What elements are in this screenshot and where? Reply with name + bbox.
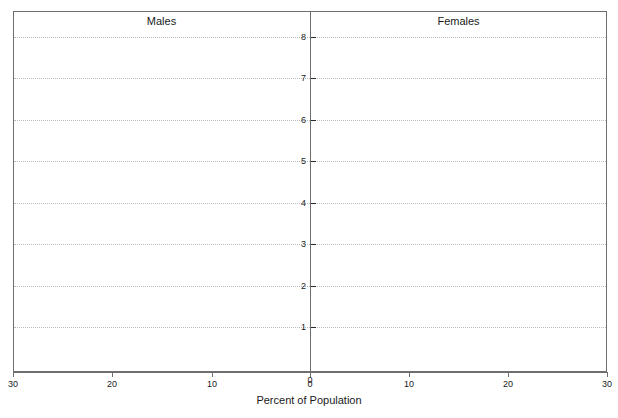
- x-tick-3: [310, 372, 311, 377]
- y-tick-label-6: 6: [286, 116, 306, 125]
- x-axis-title: Percent of Population: [0, 393, 618, 407]
- population-pyramid-chart: Males Females 876543210 3020100102030 Pe…: [0, 0, 618, 418]
- x-tick-1: [112, 372, 113, 377]
- y-tick-label-2: 2: [286, 282, 306, 291]
- x-tick-label-5: 20: [493, 379, 523, 389]
- x-tick-label-3: 0: [295, 379, 325, 389]
- x-tick-label-1: 20: [97, 379, 127, 389]
- x-tick-2: [212, 372, 213, 377]
- panel-title-females: Females: [310, 14, 607, 28]
- x-tick-4: [409, 372, 410, 377]
- y-tick-label-1: 1: [286, 323, 306, 332]
- x-tick-label-4: 10: [394, 379, 424, 389]
- panel-title-males: Males: [13, 14, 310, 28]
- x-tick-6: [607, 372, 608, 377]
- x-tick-label-0: 30: [0, 379, 28, 389]
- x-tick-label-6: 30: [592, 379, 618, 389]
- y-tick-label-3: 3: [286, 240, 306, 249]
- center-axis-line: [310, 11, 311, 372]
- x-tick-5: [508, 372, 509, 377]
- y-tick-label-7: 7: [286, 74, 306, 83]
- y-tick-label-5: 5: [286, 157, 306, 166]
- x-tick-label-2: 10: [197, 379, 227, 389]
- y-tick-label-8: 8: [286, 33, 306, 42]
- y-tick-label-4: 4: [286, 199, 306, 208]
- x-tick-0: [13, 372, 14, 377]
